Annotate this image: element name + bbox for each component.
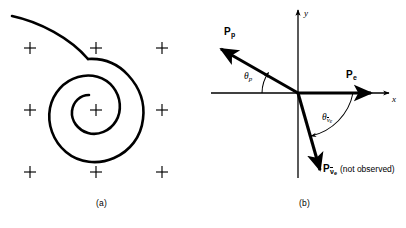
antineutrino-momentum-subscript: νe	[330, 168, 337, 175]
field-marker-plus	[90, 42, 102, 54]
field-marker-plus	[24, 166, 36, 178]
antineutrino-flavor-glyph: e	[334, 170, 337, 176]
field-marker-plus	[24, 42, 36, 54]
magnetic-field-markers	[24, 42, 168, 178]
track-entry-tail	[12, 16, 88, 59]
electron-momentum-label: Pe	[346, 70, 357, 81]
field-marker-plus	[156, 42, 168, 54]
caption-b: (b)	[203, 198, 406, 208]
x-axis-label: x	[392, 95, 396, 104]
figure-container: (a)	[0, 0, 406, 228]
spiral-track-diagram	[0, 0, 203, 196]
caption-a: (a)	[0, 198, 203, 208]
theta-antineutrino-subscript: νe	[327, 116, 333, 124]
antineutrino-nu-glyph: ν	[330, 168, 334, 175]
proton-momentum-subscript: p	[231, 31, 236, 38]
antineutrino-momentum-label: Pνe (not observed)	[323, 164, 395, 177]
field-marker-plus	[90, 166, 102, 178]
y-axis-label: y	[304, 9, 308, 18]
theta-proton-label: θp	[244, 72, 252, 83]
field-marker-plus	[156, 104, 168, 116]
electron-momentum-symbol: P	[346, 69, 353, 80]
panel-a: (a)	[0, 0, 203, 228]
theta-antineutrino-flavor-glyph: e	[330, 118, 332, 124]
theta-antineutrino-label: θνe	[322, 113, 332, 125]
antineutrino-not-observed-note: (not observed)	[340, 164, 395, 174]
electron-momentum-subscript: e	[353, 74, 357, 81]
panel-b: y x Pp Pe Pνe (not observed) θp θνe (b)	[203, 0, 406, 228]
field-marker-plus	[90, 104, 102, 116]
proton-momentum-symbol: P	[224, 26, 231, 37]
theta-proton-subscript: p	[249, 75, 253, 83]
field-marker-plus	[24, 104, 36, 116]
field-marker-plus	[156, 166, 168, 178]
antineutrino-momentum-symbol: P	[323, 163, 330, 174]
proton-momentum-label: Pp	[224, 27, 235, 38]
antineutrino-momentum-vector	[298, 93, 320, 170]
proton-momentum-vector	[221, 49, 298, 93]
